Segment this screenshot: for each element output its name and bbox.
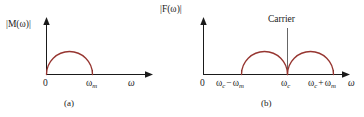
x-tick-label-b-lower: ωc−ωm [216,79,244,89]
y-axis-label-b-text: |F( [160,4,170,14]
y-axis-label-a-tail: )| [26,19,31,29]
y-axis-label-b-tail: )| [177,4,182,14]
x-tick-label-b-0: 0 [200,79,205,89]
panel-a-plot [0,0,182,117]
x-tick-label-b-upper: ωc+ωm [308,79,336,89]
x-tick-label-b-lower-sym2: ω [233,78,239,88]
lower-sideband-curve [242,52,288,75]
panel-caption-b: (b) [261,99,272,108]
upper-sideband-curve [288,52,334,75]
x-tick-label-a-wm: ωm [86,79,97,89]
x-tick-label-b-carrier: ωc [281,79,290,89]
x-tick-label-b-upper-sub2: m [331,82,336,89]
x-axis-label-a: ω [128,79,135,89]
panel-b: |F(ω)| Carrier 0 ωc−ωm ωc ωc+ωm ω (b) [182,0,364,117]
baseband-spectrum-curve [47,52,93,75]
x-tick-label-b-lower-op: − [225,78,232,88]
y-axis-arrow-a [43,17,49,25]
figure-root: |M(ω)| 0 ωm ω (a) |F(ω)| Carri [0,0,364,117]
x-axis-arrow-b [342,71,350,77]
x-axis-arrow-a [145,71,153,77]
panel-a: |M(ω)| 0 ωm ω (a) [0,0,182,117]
x-tick-label-b-upper-sub1: c [314,82,317,89]
x-tick-label-b-upper-op: + [317,78,324,88]
x-tick-label-b-upper-sym2: ω [325,78,331,88]
carrier-annotation: Carrier [268,15,295,25]
y-axis-label-b: |F(ω)| [160,5,182,15]
x-tick-label-a-0: 0 [43,79,48,89]
x-tick-label-a-wm-sub: m [92,82,97,89]
y-axis-label-a-text: |M( [6,19,20,29]
x-axis-label-b: ω [348,79,355,89]
panel-caption-a: (a) [64,99,74,108]
x-tick-label-b-lower-sub2: m [239,82,244,89]
y-axis-arrow-b [200,17,206,25]
y-axis-label-a: |M(ω)| [6,20,31,30]
x-tick-label-b-carrier-sub: c [287,82,290,89]
x-tick-label-b-lower-sub1: c [222,82,225,89]
